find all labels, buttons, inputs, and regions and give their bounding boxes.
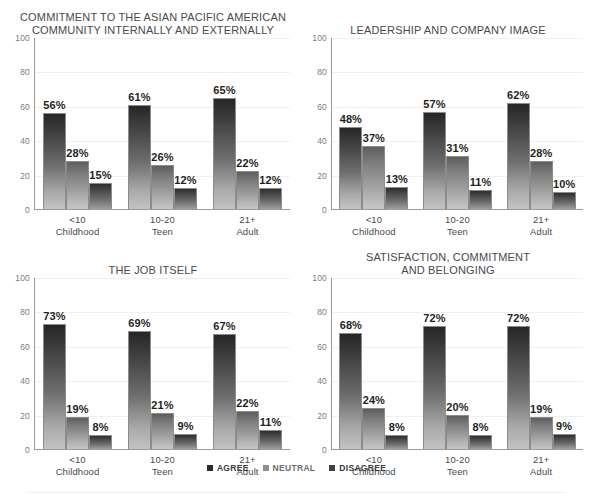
chart-title: COMMITMENT TO THE ASIAN PACIFIC AMERICAN… — [6, 10, 300, 38]
y-axis-tick: 40 — [317, 376, 327, 386]
chart-panel-satisfaction-commitment-belonging: SATISFACTION, COMMITMENT AND BELONGING 1… — [303, 250, 593, 488]
bar-disagree[interactable]: 8% — [469, 435, 492, 449]
y-axis-tick: 80 — [317, 67, 327, 77]
bar-value-label: 72% — [423, 312, 445, 324]
bar-disagree[interactable]: 9% — [553, 434, 576, 449]
bar-agree[interactable]: 72% — [423, 326, 446, 449]
x-axis-line — [331, 449, 583, 450]
x-axis-category-name: Childhood — [35, 226, 120, 238]
footer-divider — [28, 492, 565, 493]
y-axis-tick: 60 — [317, 342, 327, 352]
y-axis-tick: 100 — [15, 33, 30, 43]
y-axis-tick-labels: 100806040200 — [6, 278, 30, 450]
bar-agree[interactable]: 68% — [339, 333, 362, 449]
bar-agree[interactable]: 65% — [213, 98, 236, 209]
bar-agree[interactable]: 48% — [339, 127, 362, 209]
x-axis-line — [34, 449, 290, 450]
bar-group: 67%22%11% — [205, 278, 290, 449]
y-axis-tick-labels: 100806040200 — [303, 278, 327, 450]
bar-neutral[interactable]: 22% — [236, 411, 259, 449]
x-axis-category-range: <10 — [35, 214, 120, 226]
bar-agree[interactable]: 67% — [213, 334, 236, 449]
bar-agree[interactable]: 72% — [507, 326, 530, 449]
bar-value-label: 31% — [446, 142, 468, 154]
bar-neutral[interactable]: 19% — [66, 417, 89, 449]
y-axis-tick: 20 — [317, 171, 327, 181]
plot-area: 10080604020073%19%8%69%21%9%67%22%11% — [34, 278, 290, 450]
bar-value-label: 69% — [128, 317, 150, 329]
bar-value-label: 65% — [213, 84, 235, 96]
bar-neutral[interactable]: 24% — [362, 408, 385, 449]
bar-neutral[interactable]: 19% — [530, 417, 553, 449]
bar-group: 56%28%15% — [35, 38, 120, 209]
bar-agree[interactable]: 73% — [43, 324, 66, 449]
bar-group: 61%26%12% — [120, 38, 205, 209]
chart-grid: COMMITMENT TO THE ASIAN PACIFIC AMERICAN… — [0, 0, 593, 503]
y-axis-tick: 0 — [322, 205, 327, 215]
bar-value-label: 56% — [43, 99, 65, 111]
y-axis-tick: 40 — [20, 136, 30, 146]
bar-value-label: 62% — [507, 89, 529, 101]
x-axis-category-name: Teen — [120, 226, 205, 238]
y-axis-tick: 60 — [20, 342, 30, 352]
bar-disagree[interactable]: 8% — [89, 435, 112, 449]
bar-value-label: 67% — [213, 320, 235, 332]
bar-value-label: 8% — [472, 421, 488, 433]
bar-neutral[interactable]: 31% — [446, 156, 469, 209]
chart-title: SATISFACTION, COMMITMENT AND BELONGING — [303, 250, 593, 278]
legend-item-disagree[interactable]: DISAGREE — [329, 463, 386, 473]
bar-groups: 73%19%8%69%21%9%67%22%11% — [35, 278, 290, 449]
x-axis-category-name: Adult — [205, 226, 290, 238]
y-axis-tick: 20 — [20, 171, 30, 181]
chart-legend: AGREENEUTRALDISAGREE — [0, 463, 593, 473]
x-axis-category-label: 10-20Teen — [416, 214, 500, 238]
bar-disagree[interactable]: 13% — [385, 187, 408, 209]
bar-value-label: 24% — [363, 394, 385, 406]
bar-value-label: 68% — [340, 319, 362, 331]
bar-disagree[interactable]: 11% — [469, 190, 492, 209]
bar-neutral[interactable]: 26% — [151, 165, 174, 209]
legend-item-agree[interactable]: AGREE — [207, 463, 249, 473]
legend-item-label: DISAGREE — [339, 463, 386, 473]
legend-item-neutral[interactable]: NEUTRAL — [263, 463, 316, 473]
y-axis-tick: 80 — [20, 67, 30, 77]
x-axis-category-range: 10-20 — [120, 214, 205, 226]
x-axis-category-range: 10-20 — [416, 214, 500, 226]
bar-agree[interactable]: 61% — [128, 105, 151, 209]
bar-agree[interactable]: 57% — [423, 112, 446, 209]
bar-value-label: 48% — [340, 113, 362, 125]
bar-group: 69%21%9% — [120, 278, 205, 449]
bar-agree[interactable]: 69% — [128, 331, 151, 449]
bar-neutral[interactable]: 21% — [151, 413, 174, 449]
bar-value-label: 22% — [236, 397, 258, 409]
bar-value-label: 37% — [363, 132, 385, 144]
bar-neutral[interactable]: 28% — [530, 161, 553, 209]
bar-disagree[interactable]: 12% — [174, 188, 197, 209]
bar-value-label: 8% — [389, 421, 405, 433]
bar-group: 73%19%8% — [35, 278, 120, 449]
bar-disagree[interactable]: 12% — [259, 188, 282, 209]
bar-agree[interactable]: 56% — [43, 113, 66, 209]
y-axis-tick: 0 — [322, 445, 327, 455]
x-axis-category-label: 21+Adult — [205, 214, 290, 238]
bar-disagree[interactable]: 10% — [553, 192, 576, 209]
x-axis-line — [34, 209, 290, 210]
x-axis-category-label: 21+Adult — [499, 214, 583, 238]
bar-value-label: 22% — [236, 157, 258, 169]
legend-item-label: NEUTRAL — [273, 463, 316, 473]
bar-disagree[interactable]: 8% — [385, 435, 408, 449]
bar-agree[interactable]: 62% — [507, 103, 530, 209]
bar-group: 72%20%8% — [416, 278, 500, 449]
bar-value-label: 15% — [89, 169, 111, 181]
bar-neutral[interactable]: 28% — [66, 161, 89, 209]
bar-neutral[interactable]: 20% — [446, 415, 469, 449]
bar-disagree[interactable]: 11% — [259, 430, 282, 449]
bar-neutral[interactable]: 37% — [362, 146, 385, 209]
bar-group: 68%24%8% — [332, 278, 416, 449]
bar-value-label: 28% — [66, 147, 88, 159]
bar-disagree[interactable]: 15% — [89, 183, 112, 209]
x-axis-category-name: Teen — [416, 226, 500, 238]
bar-group: 48%37%13% — [332, 38, 416, 209]
bar-neutral[interactable]: 22% — [236, 171, 259, 209]
bar-disagree[interactable]: 9% — [174, 434, 197, 449]
